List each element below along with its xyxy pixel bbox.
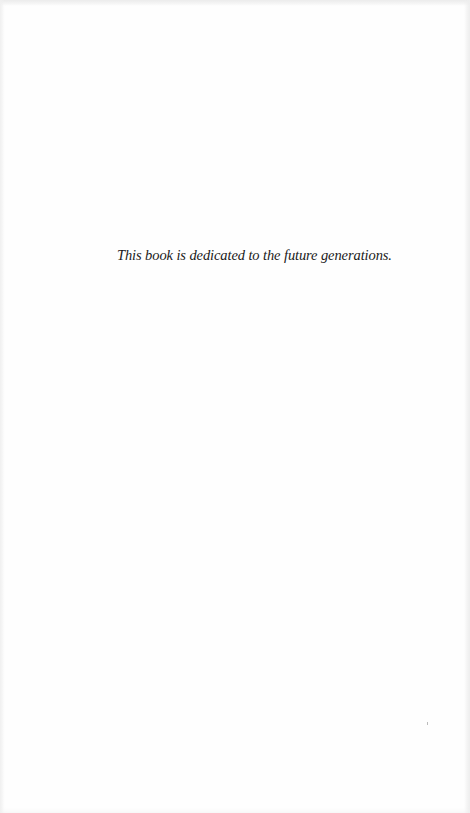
scan-edge-left <box>0 0 4 813</box>
book-page: This book is dedicated to the future gen… <box>0 0 470 813</box>
scan-edge-top <box>0 0 470 6</box>
scan-speck <box>427 722 428 725</box>
dedication-text: This book is dedicated to the future gen… <box>117 246 392 264</box>
scan-edge-right <box>464 0 470 813</box>
